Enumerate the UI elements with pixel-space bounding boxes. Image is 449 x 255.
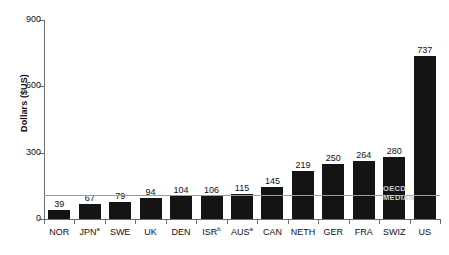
- x-tick-mark: [257, 219, 258, 224]
- x-tick-mark: [227, 219, 228, 224]
- bar-nor: [48, 210, 70, 219]
- oecd-median-label-line1: OECD: [383, 184, 414, 193]
- x-tick-mark: [410, 219, 411, 224]
- y-tick-label: 600: [26, 80, 41, 90]
- bar-value-swiz: 280: [374, 146, 414, 156]
- x-tick-mark: [288, 219, 289, 224]
- x-tick-mark: [379, 219, 380, 224]
- plot-area: 0300600900 39677994104106115145219250264…: [44, 20, 440, 219]
- x-tick-mark: [196, 219, 197, 224]
- bar-aus: [231, 194, 253, 219]
- oecd-median-line: [44, 195, 440, 196]
- bar-fra: [353, 161, 375, 219]
- x-tick-mark: [135, 219, 136, 224]
- y-tick-label: 300: [26, 147, 41, 157]
- x-tick-mark: [318, 219, 319, 224]
- x-tick-mark: [44, 219, 45, 224]
- x-tick-mark: [105, 219, 106, 224]
- bar-chart: Dollars ($US) 0300600900 396779941041061…: [0, 0, 449, 255]
- bar-jpn: [79, 204, 101, 219]
- category-label-us: US: [400, 227, 449, 237]
- y-axis-line: [44, 20, 45, 219]
- bar-value-can: 145: [252, 176, 292, 186]
- bar-swe: [109, 202, 131, 219]
- y-tick-label: 900: [26, 14, 41, 24]
- bar-can: [261, 187, 283, 219]
- oecd-median-label-line2: MEDIAN: [383, 193, 414, 202]
- bar-ger: [322, 164, 344, 219]
- x-axis-line: [44, 219, 440, 220]
- oecd-median-label: OECD MEDIAN: [383, 184, 414, 202]
- y-tick-label: 0: [36, 213, 41, 223]
- bar-value-us: 737: [405, 45, 445, 55]
- x-tick-mark: [166, 219, 167, 224]
- bar-uk: [140, 198, 162, 219]
- x-tick-mark: [440, 219, 441, 224]
- bar-den: [170, 196, 192, 219]
- x-tick-mark: [349, 219, 350, 224]
- bar-isr: [201, 196, 223, 219]
- x-tick-mark: [74, 219, 75, 224]
